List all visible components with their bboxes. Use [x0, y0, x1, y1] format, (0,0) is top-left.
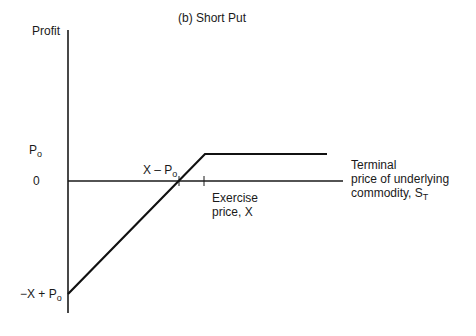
y-axis-label: Profit	[32, 24, 60, 38]
chart-title: (b) Short Put	[178, 11, 246, 25]
x-axis-label: Terminal price of underlying commodity, …	[351, 158, 449, 201]
short-put-payoff-line	[68, 154, 327, 294]
breakeven-label: X – Po	[143, 163, 177, 178]
y-tick-premium: Po	[29, 143, 42, 158]
y-tick-zero: 0	[33, 174, 40, 188]
exercise-price-label: Exercise price, X	[212, 191, 258, 219]
y-tick-min: −X + Po	[20, 287, 62, 302]
